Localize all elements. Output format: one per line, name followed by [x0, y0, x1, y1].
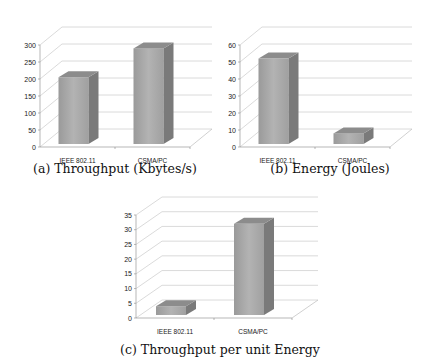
bar	[334, 133, 364, 144]
y-tick-label: 0	[32, 144, 36, 151]
y-tick-label: 35	[124, 212, 132, 219]
chart-throughput-plot: 050100150200250300IEEE 802.11CSMA/PC	[0, 0, 218, 160]
y-tick-label: 30	[228, 93, 236, 100]
bar	[134, 48, 164, 144]
x-category-label: IEEE 802.11	[157, 328, 193, 335]
y-tick-label: 10	[228, 127, 236, 134]
y-tick-label: 15	[124, 270, 132, 277]
bar	[259, 59, 289, 144]
y-tick-label: 100	[24, 110, 36, 117]
bar	[234, 224, 264, 315]
chart-energy-plot: 0102030405060IEEE 802.11CSMA/PC	[218, 0, 435, 160]
chart-throughput: 050100150200250300IEEE 802.11CSMA/PC	[0, 0, 218, 160]
chart-throughput-per-energy-plot: 05101520253035IEEE 802.11CSMA/PC	[100, 185, 340, 345]
y-tick-label: 250	[24, 59, 36, 66]
y-tick-label: 0	[128, 315, 132, 322]
y-tick-label: 20	[124, 256, 132, 263]
x-category-label: CSMA/PC	[238, 328, 268, 335]
y-tick-label: 200	[24, 76, 36, 83]
chart-throughput-per-energy: 05101520253035IEEE 802.11CSMA/PC	[100, 185, 340, 345]
y-tick-label: 60	[228, 42, 236, 49]
y-tick-label: 150	[24, 93, 36, 100]
y-tick-label: 0	[232, 144, 236, 151]
y-tick-label: 40	[228, 76, 236, 83]
bar	[156, 306, 186, 315]
y-tick-label: 300	[24, 42, 36, 49]
y-tick-label: 10	[124, 285, 132, 292]
chart-energy: 0102030405060IEEE 802.11CSMA/PC	[218, 0, 435, 160]
y-tick-label: 20	[228, 110, 236, 117]
caption-throughput: (a) Throughput (Kbytes/s)	[30, 161, 200, 176]
y-tick-label: 30	[124, 226, 132, 233]
bar	[59, 77, 89, 144]
y-tick-label: 50	[228, 59, 236, 66]
y-tick-label: 5	[128, 300, 132, 307]
caption-energy: (b) Energy (Joules)	[250, 161, 410, 176]
caption-throughput-per-energy: (c) Throughput per unit Energy	[120, 342, 320, 357]
y-tick-label: 50	[28, 127, 36, 134]
y-tick-label: 25	[124, 241, 132, 248]
